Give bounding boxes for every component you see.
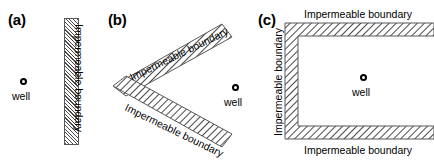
panel-a-label: (a) xyxy=(8,12,26,27)
well-marker xyxy=(360,74,367,81)
well-label: well xyxy=(12,91,30,102)
well-label: well xyxy=(352,87,370,98)
well-label: well xyxy=(224,97,242,108)
panel-b: (b) Impermeable boundary Impermeable bou… xyxy=(104,0,256,163)
impermeable-boundary-bracket xyxy=(285,23,434,139)
well-marker xyxy=(232,84,239,91)
figure-aquifer-boundary-configurations: (a) well Impermeable boundary (b) Imperm… xyxy=(0,0,434,163)
panel-a: (a) well Impermeable boundary xyxy=(0,0,104,163)
c-shape-boundary xyxy=(256,0,434,163)
impermeable-boundary-right-label: Impermeable boundary xyxy=(74,24,85,132)
well-marker xyxy=(20,78,27,85)
panel-c: (c) Impermeable boundary Impermeable bou… xyxy=(256,0,434,163)
